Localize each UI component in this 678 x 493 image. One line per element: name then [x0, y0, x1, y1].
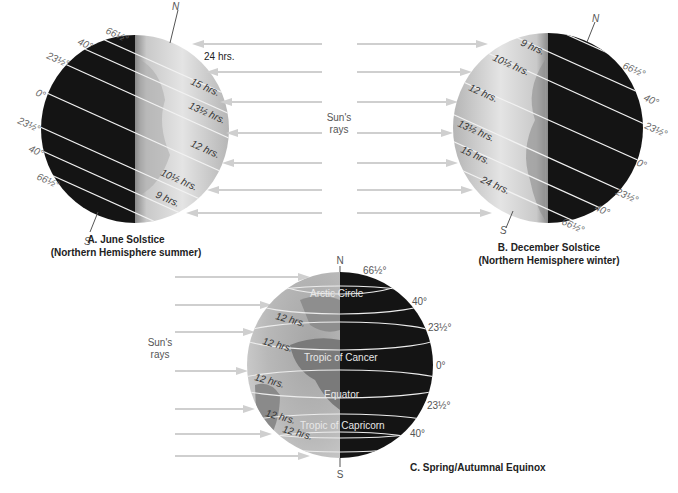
north-label: N [172, 1, 180, 12]
north-axis [587, 22, 595, 42]
sun-rays-label: rays [151, 349, 170, 360]
lat-label: 0° [436, 360, 446, 371]
caption-a-subtitle: (Northern Hemisphere summer) [51, 247, 202, 258]
lat-label: 0° [34, 87, 47, 101]
lat-label: 40° [642, 92, 660, 108]
caption-b-title: B. December Solstice [498, 242, 601, 253]
lat-label: 23½° [613, 185, 640, 205]
south-label: S [337, 469, 344, 480]
equator-label: Equator [324, 389, 360, 400]
arctic-circle-label: Arctic Circle [310, 288, 364, 299]
lat-label: 40° [593, 202, 611, 218]
panel-december-solstice: N S 66½° 40° 23½° 0° 23½° 40° 66½° 9 hrs… [450, 13, 669, 266]
sun-rays-label: Sun's [327, 112, 352, 123]
lat-label: 23½° [427, 400, 450, 411]
caption-a-title: A. June Solstice [87, 234, 165, 245]
lat-label: 66½° [363, 265, 386, 276]
lat-label: 23½° [642, 119, 669, 139]
north-label: N [592, 13, 600, 24]
day-length-label: 24 hrs. [204, 51, 235, 62]
lat-label: 40° [410, 428, 425, 439]
south-axis [90, 212, 98, 232]
caption-c-title: C. Spring/Autumnal Equinox [410, 462, 546, 473]
tropic-of-cancer-label: Tropic of Cancer [304, 352, 378, 363]
north-label: N [336, 255, 343, 266]
panel-june-solstice: N S 66½° 40° 23½° 0° 23½° 40° 66½° 24 hr… [15, 1, 250, 260]
lat-label: 66½° [560, 216, 586, 236]
seasons-diagram: N S 66½° 40° 23½° 0° 23½° 40° 66½° 24 hr… [0, 0, 678, 493]
sun-rays-label: rays [330, 124, 349, 135]
panel-equinox: Sun's rays N S 66½° 40° 23½° 0° [148, 255, 546, 480]
lat-label: 23½° [428, 322, 451, 333]
lat-label: 23½° [44, 49, 71, 69]
south-label: S [500, 225, 507, 236]
tropic-of-capricorn-label: Tropic of Capricorn [300, 420, 385, 431]
sun-rays-label: Sun's [148, 337, 173, 348]
north-axis [170, 10, 178, 43]
caption-b-subtitle: (Northern Hemisphere winter) [478, 255, 619, 266]
lat-label: 40° [412, 296, 427, 307]
lat-label: 23½° [15, 114, 42, 134]
